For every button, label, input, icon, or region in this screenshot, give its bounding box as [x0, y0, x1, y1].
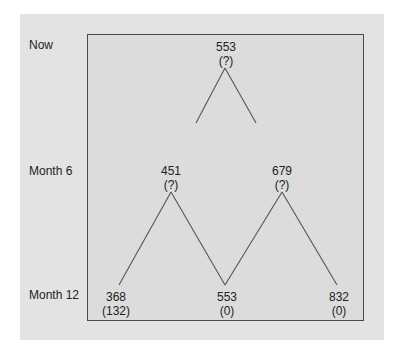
node-note: (0) — [197, 304, 257, 318]
node-value: 832 — [309, 290, 369, 304]
node-value: 451 — [141, 164, 201, 178]
node-m12-mid: 553 (0) — [197, 290, 257, 318]
node-m6-high: 679 (?) — [252, 164, 312, 192]
edge-root-high — [225, 68, 256, 123]
edge-high-mid — [225, 192, 282, 285]
row-label-month-6: Month 6 — [29, 164, 72, 178]
node-note: (132) — [86, 304, 146, 318]
node-root: 553 (?) — [196, 40, 256, 68]
row-label-now: Now — [29, 38, 53, 52]
node-note: (?) — [252, 178, 312, 192]
node-value: 368 — [86, 290, 146, 304]
node-value: 679 — [252, 164, 312, 178]
node-note: (?) — [141, 178, 201, 192]
node-m12-low: 368 (132) — [86, 290, 146, 318]
edge-root-low — [196, 68, 225, 123]
node-m6-low: 451 (?) — [141, 164, 201, 192]
edge-high-high — [282, 192, 337, 285]
node-note: (?) — [196, 54, 256, 68]
node-value: 553 — [197, 290, 257, 304]
node-m12-high: 832 (0) — [309, 290, 369, 318]
edge-low-low — [119, 192, 171, 285]
edge-low-mid — [171, 192, 225, 285]
row-label-month-12: Month 12 — [29, 288, 79, 302]
node-value: 553 — [196, 40, 256, 54]
node-note: (0) — [309, 304, 369, 318]
